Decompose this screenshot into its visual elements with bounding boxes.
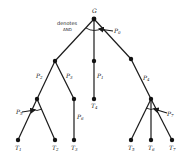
node-t7	[170, 138, 174, 142]
leaf-t6: T6	[148, 144, 155, 152]
node-left	[53, 59, 57, 63]
arrow-p0	[99, 29, 113, 31]
node-t3	[72, 138, 76, 142]
leaf-t5: T5	[128, 144, 135, 152]
node-t2	[53, 138, 57, 142]
edge-rl-t7	[151, 99, 172, 140]
node-left-left	[35, 97, 39, 101]
node-right-lower	[149, 97, 153, 101]
edge-rl-t5	[131, 99, 151, 140]
leaf-t4: T4	[91, 102, 98, 110]
node-left-right	[72, 97, 76, 101]
and-or-tree-diagram: G denotes AND P0 P1 P2 P3 P4 P5 P6 P7 T1…	[0, 0, 192, 163]
annotation-and: AND	[63, 27, 72, 32]
label-p4: P4	[142, 74, 150, 82]
edge-ll-t1	[18, 99, 37, 140]
label-p6: P6	[76, 113, 84, 121]
label-p3: P3	[65, 72, 73, 80]
node-t6	[149, 138, 153, 142]
node-middle	[92, 59, 96, 63]
node-right	[129, 57, 133, 61]
node-t4	[92, 97, 96, 101]
leaf-t2: T2	[52, 144, 59, 152]
leaf-t1: T1	[15, 144, 22, 152]
label-p1: P1	[96, 72, 104, 80]
arrow-p5	[22, 110, 35, 112]
leaf-t3: T3	[71, 144, 78, 152]
label-p2: P2	[35, 72, 43, 80]
label-p0: P0	[113, 27, 121, 35]
label-p5: P5	[15, 108, 23, 116]
leaf-t7: T7	[169, 144, 176, 152]
node-root-g	[92, 17, 97, 22]
edge-left-ll	[37, 61, 55, 99]
node-t1	[16, 138, 20, 142]
root-label: G	[92, 7, 97, 14]
edge-g-right	[94, 19, 131, 59]
node-t5	[129, 138, 133, 142]
edge-left-lr	[55, 61, 74, 99]
annotation-denotes: denotes	[57, 20, 78, 26]
label-p7: P7	[166, 110, 174, 118]
arrow-p7	[154, 109, 167, 113]
edge-ll-t2	[37, 99, 55, 140]
